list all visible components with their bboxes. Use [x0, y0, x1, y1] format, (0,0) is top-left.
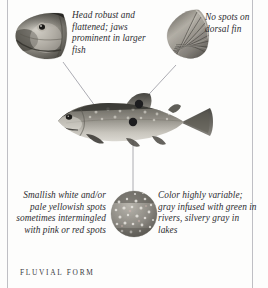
- marker-dot-flank: [129, 118, 137, 126]
- skin-photo-body: [110, 190, 158, 238]
- left-margin-rule: [7, 0, 8, 288]
- annotation-color-text: Color highly variable; gray infused with…: [158, 190, 257, 235]
- head-photo-body: [10, 10, 70, 62]
- annotation-dorsal-fin: No spots on dorsal fin: [205, 12, 263, 35]
- annotation-spots: Smallish white and/or pale yellowish spo…: [14, 190, 106, 236]
- fish-illustration: [38, 88, 218, 150]
- head-detail-inset: [12, 10, 70, 62]
- fish-anal-fin: [152, 136, 166, 145]
- annotation-dorsal-fin-text: No spots on dorsal fin: [205, 12, 249, 34]
- fish-eye: [66, 114, 72, 120]
- field-guide-figure-page: Head robust and flattened; jaws prominen…: [0, 0, 268, 288]
- right-margin-rule: [252, 0, 253, 288]
- figure-caption: FLUVIAL FORM: [20, 268, 95, 277]
- annotation-color: Color highly variable; gray infused with…: [158, 190, 258, 236]
- annotation-spots-text: Smallish white and/or pale yellowish spo…: [16, 190, 106, 235]
- flank-spotting-detail-inset: [110, 190, 158, 238]
- annotation-head: Head robust and flattened; jaws prominen…: [72, 10, 158, 56]
- fish-adipose-fin: [168, 104, 181, 113]
- annotation-head-text: Head robust and flattened; jaws prominen…: [72, 10, 146, 55]
- marker-dot-dorsal-fin: [135, 100, 143, 108]
